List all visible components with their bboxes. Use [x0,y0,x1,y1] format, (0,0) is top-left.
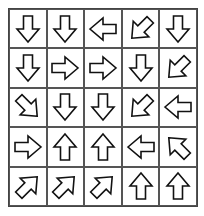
arrow-up-icon [87,131,119,163]
arrow-down-icon [87,91,119,123]
grid-cell [9,9,47,48]
grid-cell [122,167,160,206]
grid-cell [122,48,160,87]
arrow-down-right-icon [12,91,44,123]
arrow-up-right-icon [12,170,44,202]
arrow-left-icon [87,13,119,45]
arrow-down-left-icon [125,91,157,123]
grid-cell [159,167,197,206]
arrow-down-left-icon [162,52,194,84]
arrow-down-icon [12,13,44,45]
arrow-down-icon [12,52,44,84]
arrow-up-right-icon [87,170,119,202]
arrow-right-icon [87,52,119,84]
arrow-left-icon [162,91,194,123]
arrow-up-icon [49,131,81,163]
grid-cell [9,88,47,127]
arrow-down-icon [49,91,81,123]
grid-cell [159,88,197,127]
grid-cell [9,167,47,206]
arrow-up-right-icon [49,170,81,202]
grid-cell [159,127,197,166]
arrow-down-icon [162,13,194,45]
arrow-down-icon [125,52,157,84]
grid-cell [47,167,85,206]
grid-cell [47,127,85,166]
arrow-up-icon [125,170,157,202]
grid-cell [84,9,122,48]
grid-cell [47,9,85,48]
grid-cell [84,167,122,206]
arrow-down-left-icon [125,13,157,45]
grid-cell [122,9,160,48]
grid-cell [122,88,160,127]
grid-cell [84,127,122,166]
arrow-grid [8,8,198,207]
grid-cell [159,9,197,48]
arrow-up-icon [162,170,194,202]
arrow-down-icon [49,13,81,45]
grid-cell [84,48,122,87]
arrow-right-icon [12,131,44,163]
grid-cell [47,48,85,87]
grid-cell [47,88,85,127]
grid-cell [9,48,47,87]
grid-cell [84,88,122,127]
grid-cell [122,127,160,166]
arrow-right-icon [49,52,81,84]
grid-cell [9,127,47,166]
grid-cell [159,48,197,87]
arrow-up-left-icon [162,131,194,163]
arrow-left-icon [125,131,157,163]
